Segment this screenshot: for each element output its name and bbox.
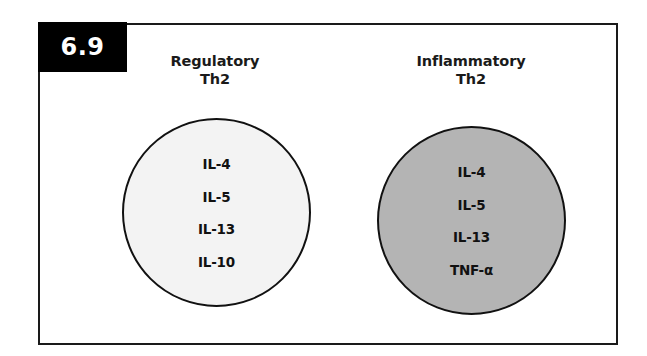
group-title-regulatory-line2: Th2 [105,70,325,88]
cytokine-label: TNF-α [450,264,493,278]
group-title-inflammatory-line1: Inflammatory [361,52,581,70]
cytokine-label: IL-5 [203,191,231,205]
cytokine-list-inflammatory: IL-4 IL-5 IL-13 TNF-α [450,166,493,277]
cytokine-list-regulatory: IL-4 IL-5 IL-13 IL-10 [198,158,235,269]
cell-circle-regulatory: IL-4 IL-5 IL-13 IL-10 [122,118,311,307]
group-title-regulatory-line1: Regulatory [105,52,325,70]
cytokine-label: IL-4 [203,158,231,172]
cytokine-label: IL-13 [453,231,490,245]
cytokine-label: IL-5 [458,199,486,213]
cytokine-label: IL-4 [458,166,486,180]
figure-number-text: 6.9 [60,35,104,60]
cytokine-label: IL-13 [198,223,235,237]
group-title-inflammatory: Inflammatory Th2 [361,52,581,88]
cytokine-label: IL-10 [198,256,235,270]
group-title-regulatory: Regulatory Th2 [105,52,325,88]
cell-circle-inflammatory: IL-4 IL-5 IL-13 TNF-α [377,126,566,315]
group-title-inflammatory-line2: Th2 [361,70,581,88]
figure-number-badge: 6.9 [38,22,127,72]
figure-container: 6.9 Regulatory Th2 Inflammatory Th2 IL-4… [0,0,647,356]
